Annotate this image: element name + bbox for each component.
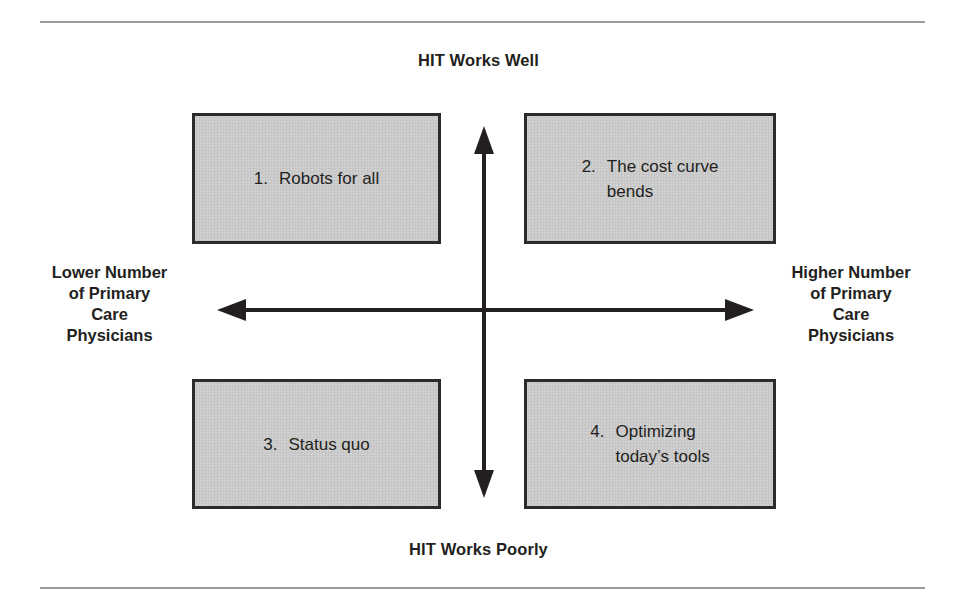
axis-label-line: Care [22, 304, 197, 325]
axis-label-hit-works-well: HIT Works Well [0, 51, 957, 70]
quadrant-text-line: Robots for all [279, 166, 379, 191]
quadrant-text-line: bends [607, 179, 719, 204]
quadrant-box-4: 4. Optimizing today’s tools [524, 379, 776, 509]
axis-label-line: Lower Number [22, 262, 197, 283]
quadrant-label-3: 3. Status quo [263, 432, 369, 457]
bottom-divider-rule [40, 587, 925, 589]
quadrant-text-1: Robots for all [279, 166, 379, 191]
quadrant-label-1: 1. Robots for all [254, 166, 379, 191]
quadrant-number-2: 2. [582, 154, 596, 179]
quadrant-label-2: 2. The cost curve bends [582, 154, 719, 204]
axis-label-line: Physicians [762, 325, 940, 346]
axis-label-hit-works-poorly: HIT Works Poorly [0, 540, 957, 559]
quadrant-number-1: 1. [254, 166, 268, 191]
quadrant-text-2: The cost curve bends [607, 154, 719, 204]
quadrant-box-1: 1. Robots for all [192, 113, 441, 244]
quadrant-text-line: The cost curve [607, 154, 719, 179]
top-divider-rule [40, 21, 925, 23]
quadrant-text-4: Optimizing today’s tools [615, 419, 709, 469]
quadrant-number-3: 3. [263, 432, 277, 457]
axis-label-line: of Primary [22, 283, 197, 304]
quadrant-text-line: Optimizing [615, 419, 709, 444]
quadrant-diagram: HIT Works Well HIT Works Poorly Lower Nu… [0, 0, 957, 600]
axis-label-higher-number-of-pcps: Higher Number of Primary Care Physicians [762, 262, 940, 346]
axis-label-line: of Primary [762, 283, 940, 304]
quadrant-label-4: 4. Optimizing today’s tools [590, 419, 709, 469]
axis-label-lower-number-of-pcps: Lower Number of Primary Care Physicians [22, 262, 197, 346]
quadrant-text-line: today’s tools [615, 444, 709, 469]
axis-label-line: Care [762, 304, 940, 325]
axis-label-line: Higher Number [762, 262, 940, 283]
quadrant-text-3: Status quo [288, 432, 369, 457]
quadrant-box-3: 3. Status quo [192, 379, 441, 509]
quadrant-number-4: 4. [590, 419, 604, 444]
quadrant-text-line: Status quo [288, 432, 369, 457]
quadrant-box-2: 2. The cost curve bends [524, 113, 776, 244]
axis-label-line: Physicians [22, 325, 197, 346]
